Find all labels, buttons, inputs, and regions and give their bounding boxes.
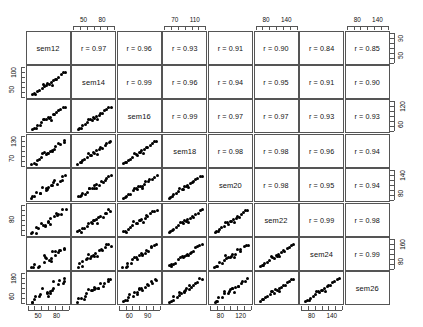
panel-scatter-sem22-sem14 <box>71 203 116 237</box>
panel-scatter-sem22-sem20 <box>208 203 253 237</box>
data-point <box>83 227 86 230</box>
panel-correlation-sem16-sem20: r = 0.97 <box>208 99 253 133</box>
correlation-label: r = 0.99 <box>118 77 161 86</box>
data-point <box>35 232 38 235</box>
axis-tick-label: 140 <box>372 16 383 23</box>
data-point <box>292 243 295 246</box>
axis-tick <box>374 26 375 30</box>
data-point <box>86 156 89 159</box>
axis-tick <box>21 161 25 162</box>
data-point <box>77 266 80 269</box>
panel-scatter-sem22-sem18 <box>162 203 207 237</box>
data-point <box>110 174 113 177</box>
data-point <box>76 301 79 304</box>
panel-correlation-sem14-sem18: r = 0.96 <box>162 65 207 99</box>
panel-scatter-sem26-sem20 <box>208 271 253 305</box>
data-point <box>53 148 56 151</box>
data-point <box>81 265 84 268</box>
axis-tick <box>283 26 284 30</box>
data-point <box>268 259 271 262</box>
axis-tick-label: 60 <box>397 121 404 128</box>
data-point <box>221 296 224 299</box>
axis-tick <box>390 269 394 270</box>
axis-tick <box>21 205 25 206</box>
panel-scatter-sem16-sem12 <box>26 99 71 133</box>
data-point <box>109 278 112 281</box>
axis-tick-label: 50 <box>397 52 404 59</box>
panel-correlation-sem12-sem26: r = 0.85 <box>345 31 390 65</box>
correlation-label: r = 0.98 <box>346 215 389 224</box>
axis-tick <box>21 67 25 68</box>
panel-correlation-sem16-sem26: r = 0.93 <box>345 99 390 133</box>
axis-tick-label: 140 <box>281 16 292 23</box>
data-point <box>56 183 59 186</box>
data-point <box>196 281 199 284</box>
diagonal-variable-label: sem20 <box>209 181 252 190</box>
correlation-label: r = 0.93 <box>346 112 389 121</box>
data-point <box>324 290 327 293</box>
diagonal-variable-label: sem18 <box>163 146 206 155</box>
data-point <box>146 215 149 218</box>
panel-correlation-sem12-sem22: r = 0.90 <box>254 31 299 65</box>
axis-tick-label: 100 <box>10 67 17 78</box>
panel-diagonal-sem12: sem12 <box>26 31 71 65</box>
axis-tick <box>21 303 25 304</box>
panel-scatter-sem26-sem16 <box>117 271 162 305</box>
correlation-label: r = 0.85 <box>346 43 389 52</box>
correlation-label: r = 0.99 <box>300 215 343 224</box>
axis-tick <box>390 200 394 201</box>
axis-tick <box>381 26 382 30</box>
data-point <box>49 223 52 226</box>
panel-correlation-sem16-sem24: r = 0.93 <box>299 99 344 133</box>
correlation-label: r = 0.99 <box>163 112 206 121</box>
axis-tick <box>21 151 25 152</box>
data-point <box>278 290 281 293</box>
correlation-label: r = 0.84 <box>300 43 343 52</box>
data-point <box>63 280 66 283</box>
data-point <box>84 295 87 298</box>
panel-scatter-sem24-sem14 <box>71 237 116 271</box>
axis-tick <box>21 220 25 221</box>
axis-tick <box>390 131 394 132</box>
axis-tick <box>21 82 25 83</box>
axis-tick <box>21 273 25 274</box>
data-point <box>41 186 44 189</box>
data-point <box>156 209 159 212</box>
axis-tick-label: 60 <box>126 312 133 319</box>
panel-diagonal-sem16: sem16 <box>117 99 162 133</box>
data-point <box>233 256 236 259</box>
axis-line <box>164 26 205 27</box>
axis-tick <box>21 288 25 289</box>
panel-correlation-sem20-sem26: r = 0.94 <box>345 168 390 202</box>
data-point <box>221 262 224 265</box>
data-point <box>83 158 86 161</box>
axis-tick <box>107 26 108 30</box>
data-point <box>136 154 139 157</box>
data-point <box>244 280 247 283</box>
axis-tick <box>21 141 25 142</box>
data-point <box>105 212 108 215</box>
axis-tick <box>94 26 95 30</box>
data-point <box>284 284 287 287</box>
axis-tick-label: 50 <box>34 312 41 319</box>
data-point <box>61 208 64 211</box>
axis-tick-label: 80 <box>262 16 269 23</box>
axis-tick <box>160 306 161 310</box>
correlation-label: r = 0.93 <box>163 43 206 52</box>
axis-tick-label: 50 <box>80 16 87 23</box>
data-point <box>182 188 185 191</box>
diagonal-variable-label: sem14 <box>72 77 115 86</box>
axis-line <box>210 310 251 311</box>
correlation-label: r = 0.95 <box>255 77 298 86</box>
data-point <box>52 280 55 283</box>
data-point <box>246 277 249 280</box>
correlation-label: r = 0.97 <box>255 112 298 121</box>
axis-tick-label: 160 <box>399 239 406 250</box>
axis-line <box>394 101 395 131</box>
data-point <box>53 179 56 182</box>
data-point <box>172 299 175 302</box>
axis-tick <box>21 77 25 78</box>
panel-scatter-sem24-sem20 <box>208 237 253 271</box>
data-point <box>187 186 190 189</box>
data-point <box>31 301 34 304</box>
